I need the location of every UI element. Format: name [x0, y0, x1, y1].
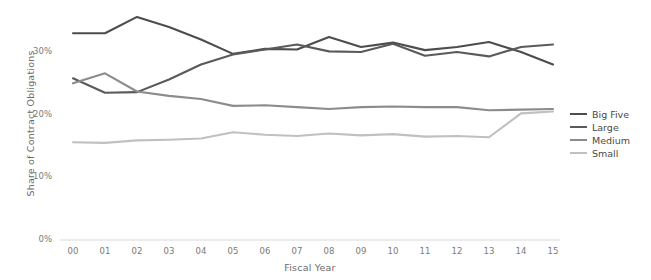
x-tick-label: 12 [442, 246, 472, 256]
legend-item-label: Big Five [592, 109, 629, 120]
x-tick-label: 14 [506, 246, 536, 256]
plot-area [0, 0, 651, 280]
y-tick-label: 0% [18, 234, 52, 244]
legend-item-large[interactable]: Large [570, 121, 648, 133]
x-axis-title: Fiscal Year [0, 262, 620, 273]
x-tick-label: 06 [250, 246, 280, 256]
y-tick-label: 10% [18, 171, 52, 181]
series-line-medium [73, 73, 553, 110]
x-tick-label: 04 [186, 246, 216, 256]
legend-swatch-icon [570, 113, 587, 116]
legend-item-label: Small [592, 148, 618, 159]
legend-item-label: Large [592, 122, 619, 133]
x-tick-label: 11 [410, 246, 440, 256]
chart-legend: Big FiveLargeMediumSmall [570, 108, 648, 160]
x-tick-label: 03 [154, 246, 184, 256]
legend-item-big-five[interactable]: Big Five [570, 108, 648, 120]
legend-swatch-icon [570, 126, 587, 129]
legend-item-medium[interactable]: Medium [570, 134, 648, 146]
legend-item-label: Medium [592, 135, 630, 146]
legend-swatch-icon [570, 139, 587, 142]
series-line-large [73, 44, 553, 93]
x-tick-label: 00 [58, 246, 88, 256]
x-tick-label: 09 [346, 246, 376, 256]
legend-swatch-icon [570, 152, 587, 155]
x-tick-label: 02 [122, 246, 152, 256]
x-tick-label: 01 [90, 246, 120, 256]
x-tick-label: 13 [474, 246, 504, 256]
x-tick-label: 05 [218, 246, 248, 256]
x-tick-label: 08 [314, 246, 344, 256]
y-tick-label: 30% [18, 46, 52, 56]
line-chart-figure: Share of Contract Obligations Fiscal Yea… [0, 0, 651, 280]
y-axis-title: Share of Contract Obligations [25, 34, 36, 214]
legend-item-small[interactable]: Small [570, 147, 648, 159]
series-line-big-five [73, 17, 553, 65]
y-tick-label: 20% [18, 109, 52, 119]
series-line-small [73, 112, 553, 143]
x-tick-label: 07 [282, 246, 312, 256]
x-tick-label: 10 [378, 246, 408, 256]
x-tick-label: 15 [538, 246, 568, 256]
